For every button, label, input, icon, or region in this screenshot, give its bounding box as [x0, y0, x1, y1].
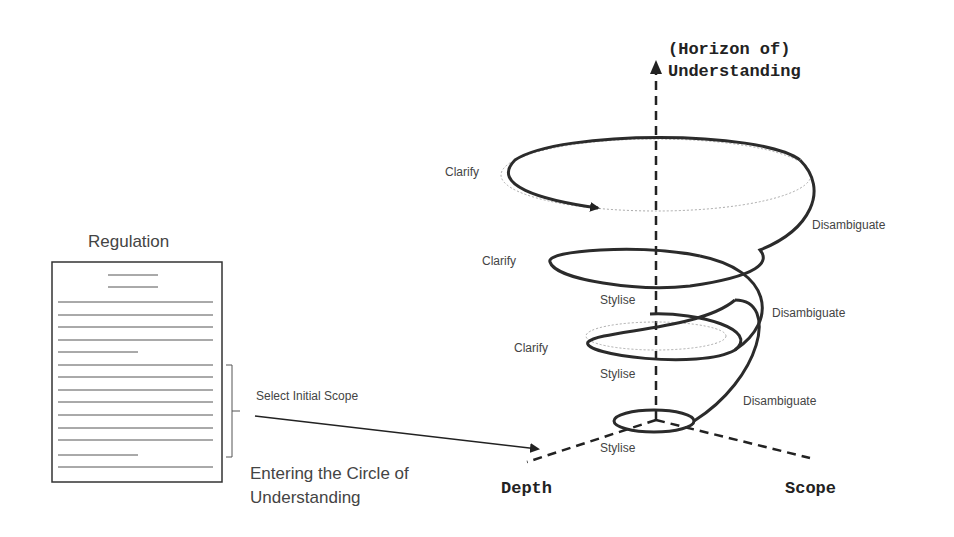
disambiguate-label-top: Disambiguate: [812, 218, 885, 232]
regulation-document: [52, 262, 222, 482]
vertical-axis-label-line2: Understanding: [668, 62, 801, 81]
document-title: Regulation: [88, 232, 169, 252]
clarify-label-mid: Clarify: [482, 254, 516, 268]
stylise-label-top: Stylise: [600, 293, 635, 307]
stylise-label-mid: Stylise: [600, 367, 635, 381]
hermeneutic-spiral-diagram: [0, 0, 954, 537]
disambiguate-label-low: Disambiguate: [743, 394, 816, 408]
depth-axis-label: Depth: [501, 479, 552, 498]
clarify-label-low: Clarify: [514, 341, 548, 355]
vertical-axis-arrowhead: [650, 60, 662, 74]
disambiguate-label-mid: Disambiguate: [772, 306, 845, 320]
entering-label-line1: Entering the Circle of: [250, 464, 409, 484]
selection-bracket: [226, 365, 240, 457]
select-scope-label: Select Initial Scope: [256, 389, 358, 403]
scope-axis-label: Scope: [785, 479, 836, 498]
vertical-axis-label-line1: (Horizon of): [668, 40, 790, 59]
select-scope-arrow: [255, 416, 538, 449]
entering-label-line2: Understanding: [250, 488, 361, 508]
clarify-label-top: Clarify: [445, 165, 479, 179]
stylise-label-low: Stylise: [600, 441, 635, 455]
spiral: [508, 138, 814, 433]
